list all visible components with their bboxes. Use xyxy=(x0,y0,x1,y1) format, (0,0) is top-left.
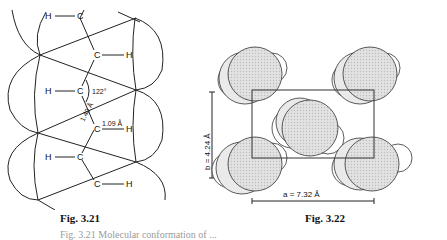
figure-3-22-caption: Fig. 3.22 xyxy=(305,212,345,224)
bottom-caption: Fig. 3.21 Molecular conformation of ... xyxy=(60,229,217,240)
figure-3-22-diagram: b = 4.24 Å a = 7.32 Å xyxy=(200,40,447,210)
svg-text:H: H xyxy=(45,11,52,21)
svg-text:C: C xyxy=(77,11,84,21)
svg-text:C: C xyxy=(77,86,84,96)
a-axis-label: a = 7.32 Å xyxy=(283,190,320,199)
svg-text:H: H xyxy=(45,86,52,96)
figure-3-21-caption: Fig. 3.21 xyxy=(60,212,100,224)
b-axis-label: b = 4.24 Å xyxy=(203,133,212,170)
figure-3-21-diagram: H C C H H C C H H C C H 122° 1.09 Å 1.40… xyxy=(0,0,210,210)
svg-text:C: C xyxy=(77,152,84,162)
svg-text:H: H xyxy=(126,124,133,134)
svg-text:H: H xyxy=(126,50,133,60)
bond-angle-label: 122° xyxy=(92,88,107,95)
svg-text:H: H xyxy=(45,152,52,162)
svg-text:C: C xyxy=(94,179,101,189)
ch-bond-length-label: 1.09 Å xyxy=(102,119,123,127)
svg-text:C: C xyxy=(94,124,101,134)
svg-text:C: C xyxy=(94,50,101,60)
svg-text:H: H xyxy=(126,179,133,189)
